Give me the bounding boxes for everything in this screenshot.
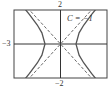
c-value-annotation: C = −1 xyxy=(67,14,93,23)
y-min-tick-label: −2 xyxy=(55,80,64,88)
hyperbola-branch xyxy=(14,0,45,90)
y-max-tick-label: 2 xyxy=(58,1,62,9)
x-min-tick-label: −3 xyxy=(2,40,11,48)
